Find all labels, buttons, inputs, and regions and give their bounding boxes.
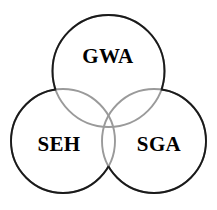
set-label-gwa: GWA [82,44,134,68]
set-label-seh: SEH [37,132,80,156]
venn-labels-layer: GWA SEH SGA [37,44,181,156]
venn-diagram: GWA SEH SGA [0,0,217,210]
venn-diagram-canvas: GWA SEH SGA [0,0,217,210]
venn-outer-arcs-layer [11,15,206,193]
circle-gwa [53,15,165,127]
set-label-sga: SGA [137,132,182,156]
